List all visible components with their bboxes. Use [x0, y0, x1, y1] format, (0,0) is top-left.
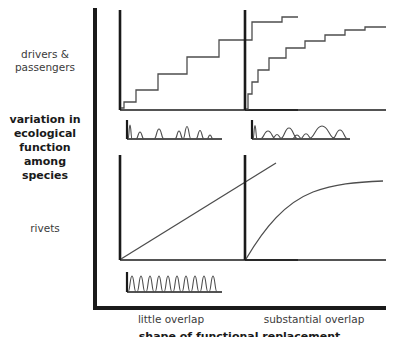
- niche-curves: [253, 126, 348, 140]
- inset-niche-little-overlap-rivets: [125, 272, 222, 300]
- row-label-drivers-passengers: drivers & passengers: [0, 48, 90, 74]
- row-label-rivets: rivets: [0, 222, 90, 235]
- ecology-function-diagram: drivers & passengers variation in ecolog…: [0, 0, 394, 337]
- main-y-axis: [93, 8, 97, 310]
- panel-drivers-substantial-overlap: [243, 10, 386, 115]
- y-axis-title: variation in ecological function among s…: [0, 113, 90, 183]
- inset-niche-substantial-overlap-drivers: [250, 120, 350, 146]
- panel-rivets-substantial-overlap: [243, 155, 386, 265]
- niche-curves: [128, 276, 217, 292]
- inset-niche-little-overlap-drivers: [125, 120, 222, 146]
- x-axis-title: shape of functional replacement: [93, 330, 386, 337]
- column-label-little-overlap: little overlap: [116, 313, 226, 325]
- main-x-axis: [93, 306, 386, 310]
- saturating-curve: [246, 181, 383, 259]
- column-label-substantial-overlap: substantial overlap: [240, 313, 388, 325]
- niche-curves: [128, 125, 213, 139]
- step-curve: [246, 27, 386, 109]
